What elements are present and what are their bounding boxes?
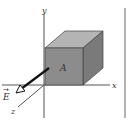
- face-label-a: A: [59, 63, 67, 73]
- z-axis-label: z: [10, 107, 16, 116]
- field-vector-overarrow: →: [3, 86, 9, 94]
- y-axis-label: y: [41, 6, 47, 15]
- cube-field-diagram: y x z A E →: [0, 0, 128, 122]
- x-axis-label: x: [112, 81, 117, 90]
